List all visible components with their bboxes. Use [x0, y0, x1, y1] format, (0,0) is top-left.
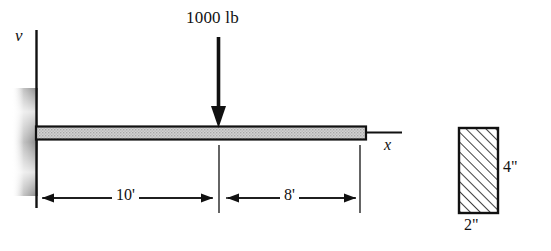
cross-section — [459, 128, 498, 213]
load-label: 1000 lb — [186, 8, 239, 28]
cross-section-width-label: 2" — [464, 216, 479, 234]
load-arrow — [211, 37, 226, 128]
x-axis-label: x — [384, 136, 391, 154]
fixed-support-shading — [12, 88, 38, 196]
v-axis-label: v — [15, 26, 23, 46]
diagram-canvas — [0, 0, 551, 251]
dimension-label-10ft: 10' — [112, 186, 139, 204]
beam-diagram: 1000 lb v x 10' 8' 4" 2" — [0, 0, 551, 251]
cross-section-height-label: 4" — [503, 158, 518, 176]
dimension-label-8ft: 8' — [280, 186, 299, 204]
beam — [36, 127, 366, 140]
